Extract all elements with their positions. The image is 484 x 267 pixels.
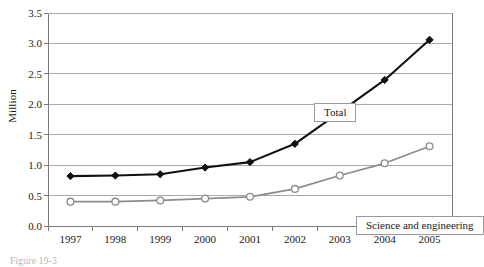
data-point-science-and-engineering-2003	[336, 172, 343, 179]
y-axis-tick-label-1.0: 1.0	[12, 159, 42, 171]
data-point-science-and-engineering-2005	[426, 143, 433, 150]
data-point-science-and-engineering-2002	[291, 185, 298, 192]
data-point-science-and-engineering-1997	[67, 198, 74, 205]
series-callout-total: Total	[314, 103, 356, 122]
series-line-total	[70, 40, 429, 176]
x-axis-tick-labels: 199719981999200020012002200320042005	[48, 233, 452, 249]
data-point-science-and-engineering-1999	[157, 197, 164, 204]
series-total	[67, 36, 433, 180]
y-axis-tick-marks	[44, 13, 48, 226]
plot-area: Total Science and engineering	[48, 13, 452, 226]
y-axis-tick-label-0.0: 0.0	[12, 220, 42, 232]
data-point-science-and-engineering-2004	[381, 160, 388, 167]
chart-canvas	[48, 13, 452, 226]
y-axis-tick-label-2.0: 2.0	[12, 98, 42, 110]
data-point-total-1999	[157, 171, 164, 178]
data-point-total-1997	[67, 172, 74, 179]
data-point-science-and-engineering-2000	[202, 195, 209, 202]
series-callout-science-and-engineering-label: Science and engineering	[366, 219, 474, 231]
y-axis-tick-label-3.5: 3.5	[12, 7, 42, 19]
data-point-total-1998	[112, 172, 119, 179]
figure-caption: Figure 19-3	[10, 255, 190, 266]
data-point-total-2001	[246, 159, 253, 166]
y-axis-tick-label-0.5: 0.5	[12, 190, 42, 202]
data-point-science-and-engineering-1998	[112, 198, 119, 205]
y-axis-tick-labels: 0.00.51.01.52.02.53.03.5	[8, 13, 42, 226]
x-axis-tick-label-2005: 2005	[403, 233, 457, 245]
y-axis-tick-label-3.0: 3.0	[12, 37, 42, 49]
series-callout-total-label: Total	[324, 106, 346, 118]
y-axis-tick-label-1.5: 1.5	[12, 129, 42, 141]
data-point-science-and-engineering-2001	[247, 193, 254, 200]
y-axis-tick-label-2.5: 2.5	[12, 68, 42, 80]
